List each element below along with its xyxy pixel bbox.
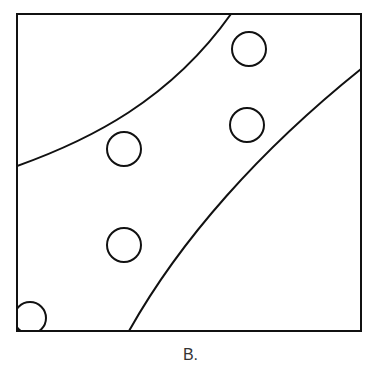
frame-border: [17, 14, 361, 331]
circle-mid-left: [107, 132, 141, 166]
upper-boundary-curve: [17, 14, 231, 166]
figure-caption: B.: [0, 346, 381, 364]
circle-corner-partial: [14, 302, 46, 334]
circle-mid-right: [230, 108, 264, 142]
circle-low-left: [107, 228, 141, 262]
circle-top-right: [232, 32, 266, 66]
diagram-canvas: [0, 0, 381, 386]
